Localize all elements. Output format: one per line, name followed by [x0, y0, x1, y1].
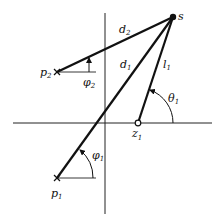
pole-zero-diagram: s p2 p1 z1 d2 d1 l1 φ2 φ1 θ1 [0, 0, 223, 222]
vector-d1 [57, 17, 173, 178]
label-phi2: φ2 [83, 76, 96, 90]
label-p2: p2 [40, 66, 52, 80]
label-d2: d2 [119, 23, 131, 37]
label-phi1: φ1 [92, 149, 104, 163]
label-l1: l1 [163, 58, 171, 72]
label-s: s [178, 10, 184, 23]
point-s [170, 14, 176, 20]
zero-z1 [135, 120, 141, 126]
label-d1: d1 [120, 58, 132, 72]
label-p1: p1 [51, 187, 63, 201]
vector-d2 [57, 17, 173, 72]
label-z1: z1 [131, 127, 142, 142]
label-theta1: θ1 [168, 92, 179, 106]
